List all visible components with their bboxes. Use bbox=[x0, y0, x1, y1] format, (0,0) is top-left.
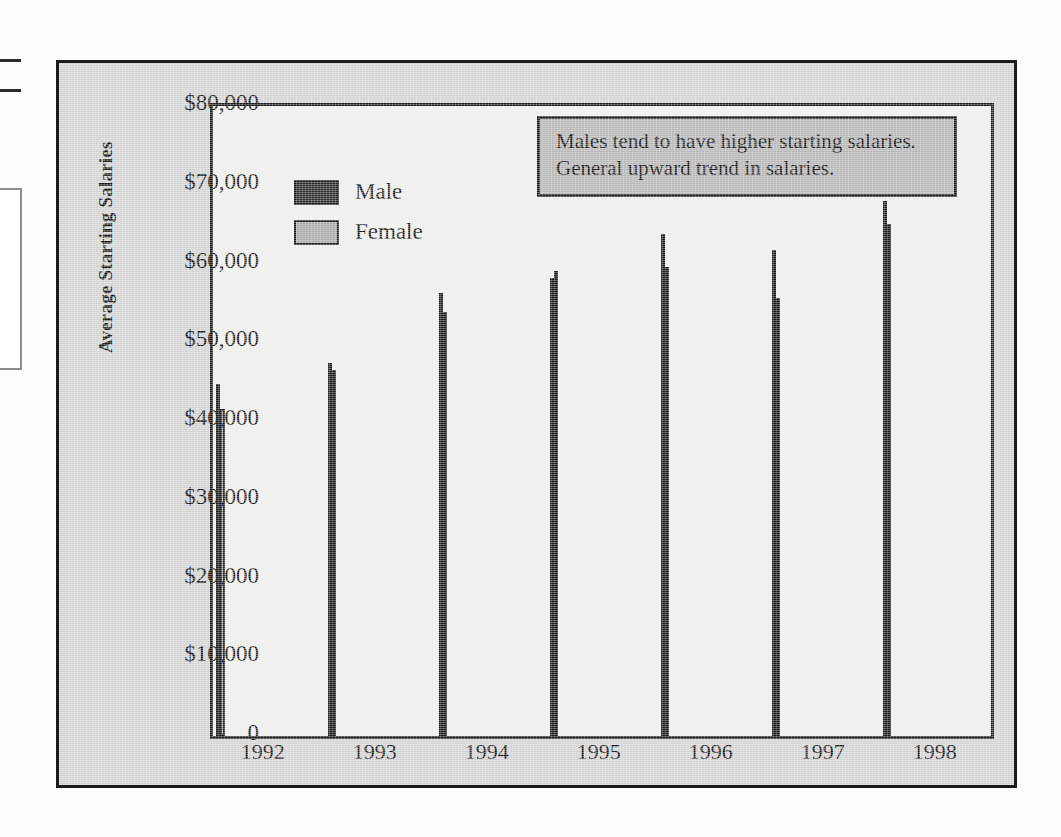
x-axis-tick-label-1992: 1992 bbox=[241, 739, 285, 765]
bar-group bbox=[546, 106, 657, 736]
bar-male-1997 bbox=[772, 250, 776, 736]
x-axis-tick-label-1998: 1998 bbox=[913, 739, 957, 765]
bar-female-1994 bbox=[443, 312, 447, 736]
page-margin-rule-second bbox=[0, 89, 21, 92]
bar-group bbox=[658, 106, 769, 736]
bar-female-1996 bbox=[665, 267, 669, 736]
y-axis-tick-label: $10,000 bbox=[184, 641, 259, 667]
y-axis-tick-label: $80,000 bbox=[184, 90, 259, 116]
bar-male-1995 bbox=[550, 278, 554, 736]
bar-male-1994 bbox=[439, 293, 443, 736]
chart-legend: Male Female bbox=[294, 179, 423, 259]
bar-group bbox=[769, 106, 880, 736]
bar-female-1993 bbox=[332, 370, 336, 736]
chart-figure-frame: Average Starting Salaries 0$10,000$20,00… bbox=[56, 60, 1017, 788]
bar-female-1997 bbox=[776, 298, 780, 736]
x-axis-tick-label-1996: 1996 bbox=[689, 739, 733, 765]
y-axis-title: Average Starting Salaries bbox=[95, 93, 117, 353]
legend-label-male: Male bbox=[355, 179, 402, 205]
bar-female-1998 bbox=[887, 224, 891, 736]
legend-label-female: Female bbox=[355, 219, 423, 245]
x-axis-tick-label-1995: 1995 bbox=[577, 739, 621, 765]
legend-swatch-male-icon bbox=[294, 180, 339, 205]
legend-item-female: Female bbox=[294, 219, 423, 245]
y-axis-tick-label: $70,000 bbox=[184, 169, 259, 195]
annotation-line-2: General upward trend in salaries. bbox=[556, 155, 938, 182]
annotation-callout: Males tend to have higher starting salar… bbox=[537, 116, 957, 197]
x-axis-tick-label-1993: 1993 bbox=[353, 739, 397, 765]
page-margin-sidebox bbox=[0, 188, 22, 370]
legend-item-male: Male bbox=[294, 179, 423, 205]
x-axis-tick-labels: 1992199319941995199619971998 bbox=[210, 739, 994, 779]
x-axis-tick-label-1997: 1997 bbox=[801, 739, 845, 765]
bar-male-1993 bbox=[328, 363, 332, 736]
y-axis-tick-labels: 0$10,000$20,000$30,000$40,000$50,000$60,… bbox=[121, 63, 267, 791]
bar-group bbox=[435, 106, 546, 736]
bar-female-1995 bbox=[554, 271, 558, 736]
bar-group bbox=[880, 106, 991, 736]
y-axis-tick-label: $60,000 bbox=[184, 248, 259, 274]
page-margin-rule-top bbox=[0, 59, 21, 62]
y-axis-tick-label: $50,000 bbox=[184, 326, 259, 352]
y-axis-tick-label: $20,000 bbox=[184, 563, 259, 589]
y-axis-tick-label: $30,000 bbox=[184, 484, 259, 510]
bar-male-1996 bbox=[661, 234, 665, 736]
x-axis-tick-label-1994: 1994 bbox=[465, 739, 509, 765]
legend-swatch-female-icon bbox=[294, 220, 339, 245]
y-axis-tick-label: $40,000 bbox=[184, 405, 259, 431]
bar-male-1998 bbox=[883, 201, 887, 737]
annotation-line-1: Males tend to have higher starting salar… bbox=[556, 128, 938, 155]
